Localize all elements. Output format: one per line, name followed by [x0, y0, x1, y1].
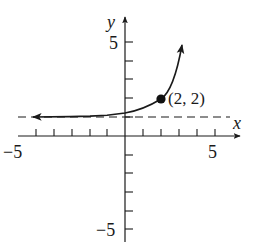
point-label: (2, 2) [168, 89, 205, 108]
graph: (2, 2) x y −5 5 5 −5 [0, 0, 253, 242]
point-marker [156, 94, 165, 103]
y-min-label: −5 [96, 220, 115, 240]
y-axis-label: y [105, 12, 115, 32]
y-max-label: 5 [109, 33, 118, 53]
x-min-label: −5 [3, 142, 22, 162]
exponential-curve [33, 45, 182, 117]
x-axis-label: x [232, 113, 241, 133]
x-axis [18, 129, 240, 136]
x-max-label: 5 [208, 142, 217, 162]
y-axis [125, 17, 133, 242]
